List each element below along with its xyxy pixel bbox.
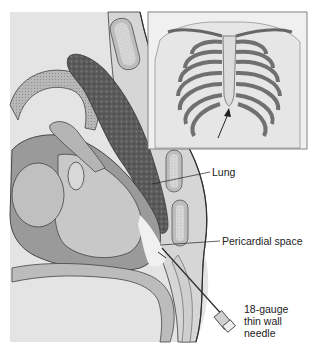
inset-sternum xyxy=(223,36,236,106)
valve-opening xyxy=(68,162,84,190)
needle-label-line2: thin wall xyxy=(244,315,288,327)
needle-label: 18-gauge thin wall needle xyxy=(244,303,288,339)
pericardiocentesis-diagram xyxy=(0,0,323,350)
heart-atrium xyxy=(12,163,64,227)
needle-label-line1: 18-gauge xyxy=(244,303,288,315)
pericardial-space-label: Pericardial space xyxy=(222,235,303,247)
inset-ribcage xyxy=(148,12,307,149)
needle-label-line3: needle xyxy=(244,327,288,339)
lung-label: Lung xyxy=(212,166,235,178)
